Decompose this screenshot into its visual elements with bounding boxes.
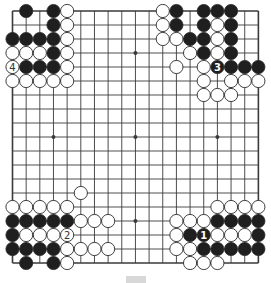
white-stone	[156, 4, 169, 17]
white-stone	[170, 32, 183, 45]
white-stone	[74, 242, 87, 255]
black-stone	[224, 46, 237, 59]
white-stone	[211, 18, 224, 31]
white-stone	[183, 242, 196, 255]
black-stone	[183, 228, 196, 241]
black-stone	[197, 32, 210, 45]
black-stone	[20, 32, 33, 45]
black-stone	[20, 256, 33, 269]
black-stone	[61, 214, 74, 227]
white-stone	[61, 60, 74, 73]
black-stone	[238, 214, 251, 227]
white-stone	[183, 214, 196, 227]
white-stone	[33, 74, 46, 87]
black-stone	[197, 46, 210, 59]
white-stone	[211, 200, 224, 213]
black-stone	[33, 214, 46, 227]
black-stone	[6, 214, 19, 227]
white-stone	[211, 46, 224, 59]
white-stone	[20, 200, 33, 213]
white-stone	[20, 228, 33, 241]
white-stone	[238, 228, 251, 241]
black-stone	[224, 4, 237, 17]
white-stone	[61, 74, 74, 87]
white-stone	[61, 4, 74, 17]
star-point	[51, 135, 55, 139]
black-stone	[20, 4, 33, 17]
black-stone	[211, 4, 224, 17]
white-stone	[6, 74, 19, 87]
black-stone	[224, 18, 237, 31]
caption-fragment	[126, 276, 146, 283]
black-stone	[20, 242, 33, 255]
white-stone	[33, 228, 46, 241]
white-stone	[183, 256, 196, 269]
white-stone	[88, 214, 101, 227]
black-stone	[47, 4, 60, 17]
white-stone	[6, 46, 19, 59]
move-number-label: 1	[200, 230, 207, 241]
black-stone	[197, 242, 210, 255]
black-stone	[238, 242, 251, 255]
white-stone	[224, 200, 237, 213]
black-stone	[197, 18, 210, 31]
black-stone	[33, 32, 46, 45]
star-point	[133, 51, 137, 55]
black-stone	[224, 32, 237, 45]
black-stone	[224, 60, 237, 73]
black-stone	[252, 228, 265, 241]
white-stone	[20, 46, 33, 59]
white-stone	[61, 256, 74, 269]
black-stone	[20, 60, 33, 73]
go-board: 1234	[0, 0, 271, 283]
white-stone	[61, 242, 74, 255]
black-stone	[47, 46, 60, 59]
white-stone	[238, 200, 251, 213]
white-stone	[47, 74, 60, 87]
white-stone	[224, 74, 237, 87]
black-stone	[211, 242, 224, 255]
white-stone	[156, 18, 169, 31]
white-stone	[211, 256, 224, 269]
black-stone	[47, 32, 60, 45]
black-stone	[20, 214, 33, 227]
star-point	[133, 135, 137, 139]
white-stone	[252, 74, 265, 87]
black-stone	[33, 242, 46, 255]
white-stone	[74, 214, 87, 227]
white-stone	[197, 214, 210, 227]
white-stone	[74, 186, 87, 199]
black-stone	[252, 242, 265, 255]
black-stone	[6, 32, 19, 45]
black-stone	[224, 214, 237, 227]
white-stone	[102, 214, 115, 227]
white-stone	[197, 60, 210, 73]
black-stone	[47, 256, 60, 269]
black-stone	[252, 60, 265, 73]
white-stone	[156, 32, 169, 45]
star-point	[133, 219, 137, 223]
white-stone	[183, 46, 196, 59]
black-stone	[47, 60, 60, 73]
white-stone	[224, 228, 237, 241]
white-stone	[47, 200, 60, 213]
black-stone	[47, 18, 60, 31]
white-stone	[61, 200, 74, 213]
white-stone	[170, 242, 183, 255]
black-stone	[224, 242, 237, 255]
white-stone	[211, 88, 224, 101]
star-point	[215, 135, 219, 139]
white-stone	[102, 242, 115, 255]
white-stone	[211, 228, 224, 241]
black-stone	[211, 214, 224, 227]
white-stone	[238, 74, 251, 87]
black-stone	[47, 214, 60, 227]
black-stone	[183, 32, 196, 45]
white-stone	[197, 74, 210, 87]
white-stone	[33, 200, 46, 213]
black-stone	[252, 214, 265, 227]
white-stone	[6, 200, 19, 213]
move-number-label: 3	[214, 62, 221, 73]
white-stone	[197, 256, 210, 269]
white-stone	[20, 74, 33, 87]
